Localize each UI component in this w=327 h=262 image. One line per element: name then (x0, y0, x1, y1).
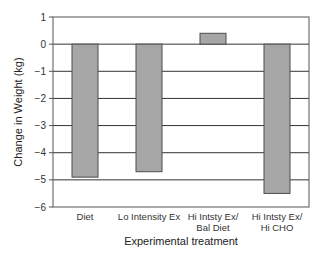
bar-1 (136, 44, 162, 172)
y-tick-labels: 10−1−2−3−4−5−6 (35, 12, 47, 213)
bars (72, 33, 290, 193)
x-category-label: Hi Intsty Ex/ (252, 211, 303, 222)
bar-chart: 10−1−2−3−4−5−6 DietLo Intensity ExHi Int… (0, 0, 327, 262)
bar-2 (200, 33, 226, 44)
x-category-label: Hi CHO (261, 222, 294, 233)
x-category-label: Diet (77, 211, 94, 222)
x-category-label: Bal Diet (196, 222, 230, 233)
x-category-label: Lo Intensity Ex (118, 211, 181, 222)
y-tick-label: −1 (35, 66, 47, 77)
x-axis-label: Experimental treatment (124, 235, 238, 247)
y-tick-label: −2 (35, 93, 47, 104)
y-axis-label: Change in Weight (kg) (12, 57, 24, 166)
bar-3 (264, 44, 290, 193)
y-tick-label: −4 (35, 147, 47, 158)
y-tick-label: −3 (35, 120, 47, 131)
x-category-labels: DietLo Intensity ExHi Intsty Ex/Bal Diet… (77, 211, 303, 233)
y-tick-label: −5 (35, 174, 47, 185)
bar-0 (72, 44, 98, 177)
y-tick-label: 0 (40, 39, 46, 50)
y-tick-label: −6 (35, 202, 47, 213)
y-tick-label: 1 (40, 12, 46, 23)
x-category-label: Hi Intsty Ex/ (188, 211, 239, 222)
